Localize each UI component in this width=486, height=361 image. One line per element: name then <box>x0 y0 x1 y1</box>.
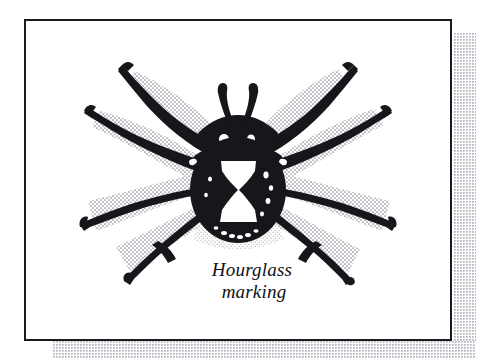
illustration-stage: Hourglass marking <box>0 0 486 361</box>
frame-shadow-bottom <box>53 341 476 358</box>
frame-shadow-right <box>454 33 476 355</box>
caption-line-2: marking <box>54 281 450 303</box>
abdomen <box>190 137 286 243</box>
picture-frame: Hourglass marking <box>24 19 452 341</box>
black-widow-spider-illustration <box>38 25 438 287</box>
caption: Hourglass marking <box>26 259 450 303</box>
caption-line-1: Hourglass <box>54 259 450 281</box>
artwork-area: Hourglass marking <box>26 21 450 339</box>
